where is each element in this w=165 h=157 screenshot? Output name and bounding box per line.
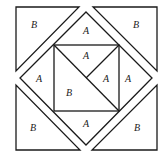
label-diamond-right: A <box>124 73 132 84</box>
label-corner-top-left: B <box>31 19 37 30</box>
label-inner-top: A <box>82 50 90 61</box>
label-corner-bottom-left: B <box>30 122 36 133</box>
label-diamond-left: A <box>35 73 43 84</box>
label-corner-bottom-right: B <box>134 122 140 133</box>
label-diamond-bottom: A <box>82 118 90 129</box>
quilt-diagram: B B B B A A A A A A B <box>0 0 165 157</box>
label-inner-right: A <box>102 73 110 84</box>
label-diamond-top: A <box>82 25 90 36</box>
label-corner-top-right: B <box>133 19 139 30</box>
label-inner-lower-left: B <box>66 87 72 98</box>
